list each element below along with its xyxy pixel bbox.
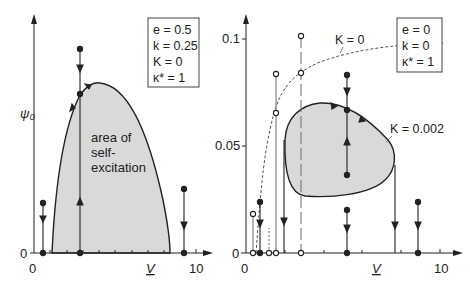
x-axis-label: V: [146, 261, 156, 276]
x-axis-arrow-icon: [453, 250, 463, 256]
param-e: e = 0.5: [153, 23, 192, 37]
k0-label: K = 0: [335, 33, 365, 47]
y-tick-0: 0: [232, 246, 239, 261]
y-tick-0.05: 0.05: [215, 138, 240, 153]
y-tick-0.1: 0.1: [222, 31, 240, 46]
region-label-1: area of: [91, 130, 132, 145]
x-axis-label: V: [372, 261, 382, 276]
phase-diagrams: ψ₀ 0 0 10 V e = 0.5 k = 0.25 K = 0 κ* = …: [0, 0, 470, 281]
k0002-label: K = 0.002: [390, 122, 444, 136]
param-k: k = 0: [402, 39, 429, 53]
x-axis-arrow-icon: [203, 250, 213, 256]
param-kappa: κ* = 1: [402, 55, 434, 69]
param-kappa: κ* = 1: [153, 71, 185, 85]
x-tick-0: 0: [29, 261, 36, 276]
y-axis-arrow-icon: [31, 14, 37, 24]
param-k: k = 0.25: [153, 39, 198, 53]
param-K: K = 0: [153, 55, 183, 69]
right-panel: 0.1 0.05 0 0 10 V: [215, 14, 463, 276]
x-tick-10: 10: [434, 261, 448, 276]
figure-root: ψ₀ 0 0 10 V e = 0.5 k = 0.25 K = 0 κ* = …: [0, 0, 470, 281]
y-tick-0: 0: [20, 246, 27, 261]
region-label-3: excitation: [91, 160, 146, 175]
param-e: e = 0: [402, 23, 430, 37]
left-panel: ψ₀ 0 0 10 V e = 0.5 k = 0.25 K = 0 κ* = …: [20, 14, 213, 276]
x-tick-0: 0: [241, 261, 248, 276]
x-tick-10: 10: [189, 261, 203, 276]
region-label-2: self-: [91, 145, 116, 160]
y-axis-label: ψ₀: [20, 106, 35, 121]
y-axis-arrow-icon: [243, 14, 249, 24]
